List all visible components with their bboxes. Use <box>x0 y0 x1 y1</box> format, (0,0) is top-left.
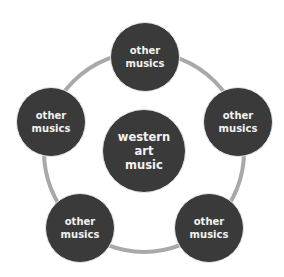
satellite-node-label: other musics <box>219 109 258 135</box>
center-node: western art music <box>102 109 186 193</box>
satellite-node-right: other musics <box>203 87 273 157</box>
satellite-node-left: other musics <box>16 87 86 157</box>
satellite-node-label: other musics <box>190 215 229 241</box>
satellite-node-bottom-left: other musics <box>45 193 115 263</box>
satellite-node-label: other musics <box>32 109 71 135</box>
satellite-node-top: other musics <box>110 22 180 92</box>
satellite-node-label: other musics <box>61 215 100 241</box>
center-node-label: western art music <box>118 130 170 172</box>
satellite-node-bottom-right: other musics <box>174 193 244 263</box>
satellite-node-label: other musics <box>126 44 165 70</box>
